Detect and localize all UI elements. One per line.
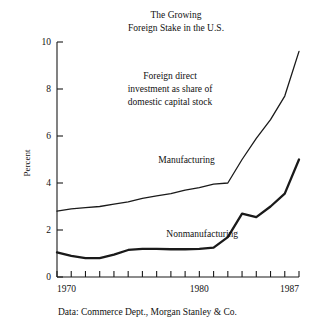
y-tick-label: 2 [46,225,51,235]
y-tick-label: 4 [46,178,51,188]
y-tick-group: 0246810 [42,37,64,282]
x-tick-label: 1970 [57,284,76,294]
x-axis: 197019801987 [57,271,299,294]
annotation-line-2: investment as share of [128,84,214,94]
chart-title-line-1: The Growing [151,10,202,20]
y-tick-label: 10 [42,37,52,47]
y-tick-label: 8 [46,84,51,94]
chart-title-line-2: Foreign Stake in the U.S. [128,23,224,33]
x-tick-label: 1980 [190,284,209,294]
y-tick-label: 0 [46,272,51,282]
y-tick-label: 6 [46,131,51,141]
annotation-line-3: domestic capital stock [128,97,213,107]
x-tick-label: 1987 [280,284,299,294]
series-label-manufacturing: Manufacturing [158,155,215,165]
y-axis-title: Percent [22,149,32,176]
series-line-nonmanufacturing [57,160,299,259]
source-note: Data: Commerce Dept., Morgan Stanley & C… [58,307,237,317]
x-tick-group [57,271,299,277]
chart-figure: The Growing Foreign Stake in the U.S. Fo… [0,0,317,323]
annotation-line-1: Foreign direct [143,71,197,81]
series-label-nonmanufacturing: Nonmanufacturing [166,229,238,239]
y-axis: 0246810 [42,37,64,282]
series-label-group: ManufacturingNonmanufacturing [158,155,238,239]
x-tick-label-group: 197019801987 [57,284,299,294]
